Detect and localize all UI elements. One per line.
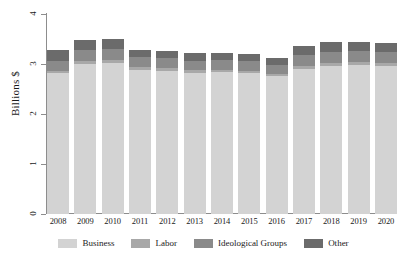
bar-segment-business bbox=[74, 64, 96, 214]
bar-segment-other bbox=[129, 50, 151, 58]
bar-column[interactable] bbox=[74, 14, 96, 214]
legend-label: Business bbox=[82, 238, 114, 248]
bar-segment-ideological-groups bbox=[375, 52, 397, 63]
x-axis-tick-label: 2012 bbox=[156, 216, 178, 226]
bar-segment-ideological-groups bbox=[129, 57, 151, 67]
y-axis-tick-label: 2 bbox=[29, 107, 38, 121]
y-axis-tick bbox=[41, 14, 46, 15]
x-axis-tick-label: 2020 bbox=[375, 216, 397, 226]
legend-label: Labor bbox=[155, 238, 177, 248]
bar-column[interactable] bbox=[266, 14, 288, 214]
y-axis-tick-label: 3 bbox=[29, 57, 38, 71]
bar-segment-ideological-groups bbox=[293, 55, 315, 66]
bar-column[interactable] bbox=[293, 14, 315, 214]
bar-segment-other bbox=[156, 51, 178, 59]
y-axis-title: Billions $ bbox=[10, 54, 21, 134]
bar-segment-ideological-groups bbox=[156, 58, 178, 68]
y-axis-tick-label: 4 bbox=[29, 7, 38, 21]
x-axis-tick-label: 2009 bbox=[74, 216, 96, 226]
bar-segment-business bbox=[320, 66, 342, 215]
bar-segment-business bbox=[129, 70, 151, 215]
x-axis-tick-label: 2018 bbox=[320, 216, 342, 226]
bar-column[interactable] bbox=[375, 14, 397, 214]
x-axis-tick-label: 2010 bbox=[102, 216, 124, 226]
x-axis-tick-label: 2019 bbox=[348, 216, 370, 226]
x-axis-tick-label: 2015 bbox=[238, 216, 260, 226]
legend-item[interactable]: Labor bbox=[131, 238, 177, 248]
bar-segment-other bbox=[375, 43, 397, 53]
bar-column[interactable] bbox=[348, 14, 370, 214]
bar-column[interactable] bbox=[184, 14, 206, 214]
x-axis-tick-label: 2011 bbox=[129, 216, 151, 226]
bar-column[interactable] bbox=[129, 14, 151, 214]
bar-segment-ideological-groups bbox=[184, 61, 206, 71]
bar-segment-ideological-groups bbox=[266, 65, 288, 74]
legend-swatch-icon bbox=[304, 239, 323, 248]
bar-segment-other bbox=[74, 40, 96, 51]
bar-segment-other bbox=[47, 50, 69, 62]
x-axis-tick-label: 2013 bbox=[184, 216, 206, 226]
bar-segment-other bbox=[238, 54, 260, 61]
bar-segment-other bbox=[211, 53, 233, 61]
bar-segment-business bbox=[348, 65, 370, 214]
x-axis-tick-label: 2017 bbox=[293, 216, 315, 226]
y-axis-tick bbox=[41, 214, 46, 215]
stacked-bar-chart: Billions $ 43210 20082009201020112012201… bbox=[0, 0, 407, 266]
y-axis-tick bbox=[41, 114, 46, 115]
bar-segment-ideological-groups bbox=[74, 50, 96, 61]
bar-segment-ideological-groups bbox=[238, 61, 260, 71]
legend-item[interactable]: Business bbox=[58, 238, 114, 248]
legend-swatch-icon bbox=[131, 239, 150, 248]
bar-segment-business bbox=[184, 73, 206, 215]
bar-column[interactable] bbox=[156, 14, 178, 214]
bar-segment-business bbox=[47, 73, 69, 214]
y-axis-tick bbox=[41, 164, 46, 165]
bar-segment-other bbox=[102, 39, 124, 49]
legend-item[interactable]: Ideological Groups bbox=[194, 238, 287, 248]
legend-item[interactable]: Other bbox=[304, 238, 349, 248]
x-axis-tick-label: 2014 bbox=[211, 216, 233, 226]
legend-swatch-icon bbox=[194, 239, 213, 248]
bar-segment-ideological-groups bbox=[102, 49, 124, 60]
bar-column[interactable] bbox=[320, 14, 342, 214]
bars-group bbox=[47, 14, 397, 214]
bar-segment-other bbox=[184, 53, 206, 61]
bar-segment-ideological-groups bbox=[47, 61, 69, 71]
x-axis-tick-label: 2016 bbox=[266, 216, 288, 226]
bar-segment-business bbox=[211, 72, 233, 214]
bar-segment-business bbox=[293, 69, 315, 215]
bar-segment-ideological-groups bbox=[348, 51, 370, 62]
bar-segment-other bbox=[348, 42, 370, 52]
bar-segment-other bbox=[293, 46, 315, 55]
y-axis-tick bbox=[41, 64, 46, 65]
bar-segment-other bbox=[266, 58, 288, 65]
bar-segment-ideological-groups bbox=[211, 60, 233, 70]
bar-column[interactable] bbox=[238, 14, 260, 214]
bar-segment-ideological-groups bbox=[320, 52, 342, 63]
bar-column[interactable] bbox=[211, 14, 233, 214]
bar-segment-business bbox=[102, 63, 124, 214]
legend-label: Ideological Groups bbox=[218, 238, 287, 248]
x-axis-labels: 2008200920102011201220132014201520162017… bbox=[47, 216, 397, 226]
y-axis-tick-label: 1 bbox=[29, 157, 38, 171]
bar-segment-business bbox=[266, 76, 288, 214]
bar-segment-business bbox=[156, 71, 178, 215]
y-axis-tick-label: 0 bbox=[29, 207, 38, 221]
bar-segment-business bbox=[238, 73, 260, 214]
bar-segment-other bbox=[320, 42, 342, 52]
bar-segment-business bbox=[375, 66, 397, 214]
bar-column[interactable] bbox=[102, 14, 124, 214]
legend-swatch-icon bbox=[58, 239, 77, 248]
bar-column[interactable] bbox=[47, 14, 69, 214]
chart-legend: BusinessLaborIdeological GroupsOther bbox=[0, 238, 407, 248]
legend-label: Other bbox=[328, 238, 349, 248]
x-axis-tick-label: 2008 bbox=[47, 216, 69, 226]
